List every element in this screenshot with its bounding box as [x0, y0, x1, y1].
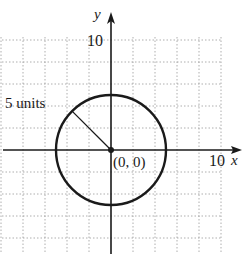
radius-label: 5 units	[5, 95, 46, 111]
y-tick-label: 10	[87, 32, 103, 49]
center-label: (0, 0)	[113, 154, 146, 171]
x-tick-label: 10	[209, 152, 225, 169]
radius-segment	[72, 111, 111, 150]
center-point	[108, 147, 114, 153]
y-axis-label: y	[92, 6, 101, 22]
coordinate-figure: y 10 x 10 5 units (0, 0)	[0, 0, 244, 254]
x-axis-label: x	[230, 152, 238, 168]
